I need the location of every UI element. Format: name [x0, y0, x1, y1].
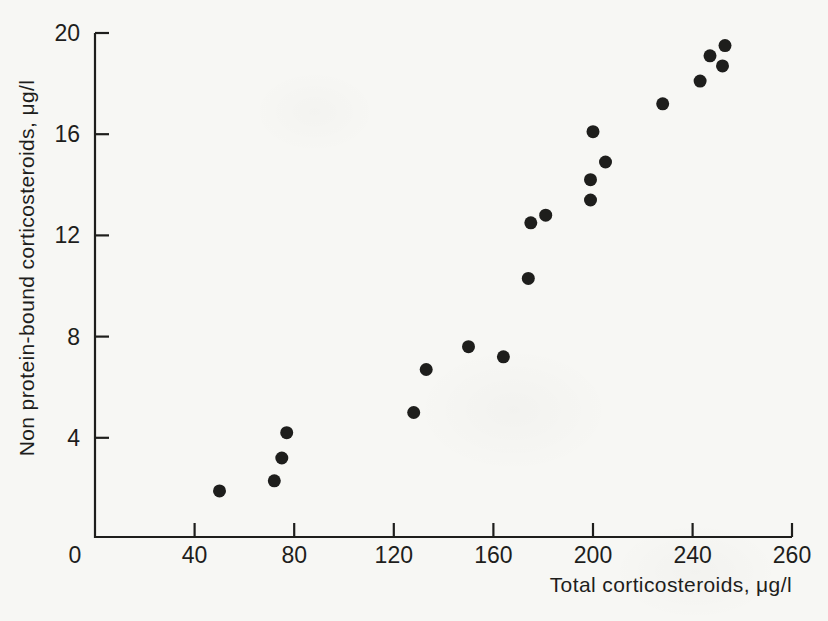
- data-point: [584, 173, 597, 186]
- data-point: [462, 340, 475, 353]
- scatter-plot-canvas: 4812162004080120160200240260: [0, 0, 828, 621]
- data-point: [656, 97, 669, 110]
- y-axis-title: Non protein-bound corticosteroids, μg/l: [15, 80, 39, 457]
- x-tick-label: 0: [69, 542, 82, 568]
- y-tick-label: 12: [54, 222, 80, 248]
- data-point: [524, 216, 537, 229]
- axes: [95, 33, 792, 537]
- data-point: [694, 75, 707, 88]
- data-point: [599, 156, 612, 169]
- data-point: [716, 59, 729, 72]
- data-point: [497, 350, 510, 363]
- x-tick-label: 120: [375, 542, 413, 568]
- data-point: [584, 194, 597, 207]
- x-tick-label: 260: [773, 542, 811, 568]
- data-point: [407, 406, 420, 419]
- data-points: [213, 39, 732, 497]
- x-tick-label: 200: [574, 542, 612, 568]
- y-tick-label: 4: [67, 425, 80, 451]
- y-tick-label: 8: [67, 324, 80, 350]
- data-point: [704, 49, 717, 62]
- y-tick-label: 20: [54, 20, 80, 46]
- scatter-figure: 4812162004080120160200240260 Total corti…: [0, 0, 828, 621]
- x-axis-title: Total corticosteroids, μg/l: [550, 573, 792, 597]
- y-tick-label: 16: [54, 121, 80, 147]
- data-point: [420, 363, 433, 376]
- data-point: [539, 209, 552, 222]
- x-tick-label: 240: [673, 542, 711, 568]
- data-point: [280, 426, 293, 439]
- x-tick-label: 160: [474, 542, 512, 568]
- data-point: [275, 452, 288, 465]
- x-tick-label: 40: [182, 542, 208, 568]
- data-point: [587, 125, 600, 138]
- data-point: [213, 484, 226, 497]
- x-tick-label: 80: [281, 542, 307, 568]
- data-point: [522, 272, 535, 285]
- data-point: [268, 474, 281, 487]
- data-point: [719, 39, 732, 52]
